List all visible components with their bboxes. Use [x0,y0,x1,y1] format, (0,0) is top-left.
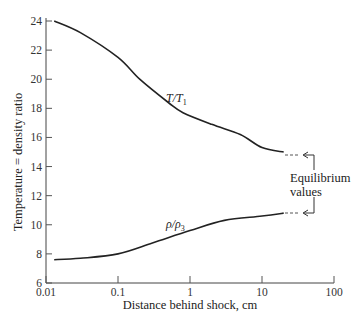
y-tick-label: 12 [31,190,43,202]
y-tick-label: 16 [31,131,43,143]
x-tick-label: 10 [256,286,268,298]
temperature-ratio-curve [54,21,284,152]
y-tick-label: 10 [31,219,43,231]
y-axis-title: Temperature = density ratio [11,93,25,231]
y-tick-label: 22 [31,44,43,56]
x-ticks: 0.010.1110100 [36,276,343,298]
y-tick-label: 24 [31,15,43,27]
equilibrium-annotation: Equilibrium values [285,152,351,216]
equilibrium-label-line1: Equilibrium [290,171,351,185]
y-tick-label: 20 [31,73,43,85]
y-tick-label: 14 [31,161,43,173]
bracket-upper [304,155,314,170]
y-ticks: 681012141618202224 [31,15,53,289]
x-tick-label: 100 [325,286,343,298]
axes [46,18,334,283]
shock-profile-chart: 681012141618202224 0.010.1110100 Tempera… [0,0,359,325]
x-axis-title: Distance behind shock, cm [123,298,258,312]
x-tick-label: 0.01 [36,286,56,298]
y-tick-label: 18 [31,102,43,114]
bracket-lower [304,197,314,213]
x-tick-label: 0.1 [111,286,126,298]
y-tick-label: 8 [36,248,42,260]
density-ratio-label: ρ/ρ3 [165,217,185,233]
x-tick-label: 1 [187,286,193,298]
equilibrium-label-line2: values [290,185,322,199]
temperature-ratio-label: T/T1 [166,91,187,107]
